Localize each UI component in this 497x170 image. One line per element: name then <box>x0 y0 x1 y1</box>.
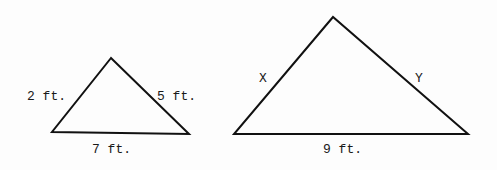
large-triangle <box>234 17 468 134</box>
small-triangle-left-side-label: 2 ft. <box>27 90 66 103</box>
small-triangle-right-side-label: 5 ft. <box>157 90 196 103</box>
similar-triangles-diagram: 2 ft. 5 ft. 7 ft. X Y 9 ft. <box>0 0 497 170</box>
large-triangle-base-label: 9 ft. <box>323 143 362 156</box>
large-triangle-right-side-label: Y <box>415 72 423 85</box>
large-triangle-left-side-label: X <box>259 72 267 85</box>
small-triangle-base-label: 7 ft. <box>92 143 131 156</box>
